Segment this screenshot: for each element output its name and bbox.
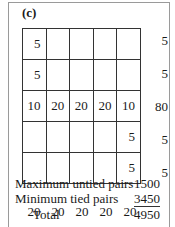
cell: 20 bbox=[93, 91, 117, 122]
cell: 5 bbox=[117, 122, 141, 153]
row-total: 5 bbox=[142, 33, 168, 49]
cell bbox=[117, 29, 141, 60]
row-total: 5 bbox=[142, 66, 168, 82]
summary-value: 1500 bbox=[134, 176, 160, 191]
summary-label: Total bbox=[15, 207, 60, 222]
summary-row-total: Total 4950 bbox=[15, 207, 160, 222]
row-total: 5 bbox=[142, 132, 168, 148]
table-row: 5 bbox=[23, 122, 141, 153]
table-row: 5 bbox=[23, 60, 141, 91]
cell bbox=[70, 60, 94, 91]
panel-label: (c) bbox=[22, 5, 36, 21]
summary-label: Maximum untied pairs bbox=[15, 176, 133, 191]
table-row: 10 20 20 20 10 bbox=[23, 91, 141, 122]
summary-row-tied: Minimum tied pairs 3450 bbox=[15, 191, 160, 207]
cell: 20 bbox=[70, 91, 94, 122]
cell: 5 bbox=[23, 29, 47, 60]
row-total: 80 bbox=[142, 99, 168, 115]
summary-row-untied: Maximum untied pairs 1500 bbox=[15, 176, 160, 191]
cell: 10 bbox=[23, 91, 47, 122]
cell bbox=[117, 60, 141, 91]
cell: 20 bbox=[46, 91, 70, 122]
cell: 10 bbox=[117, 91, 141, 122]
contingency-table: 5 5 10 20 20 20 10 5 5 bbox=[22, 28, 141, 184]
table-row: 5 bbox=[23, 29, 141, 60]
summary-block: Maximum untied pairs 1500 Minimum tied p… bbox=[15, 176, 160, 222]
cell bbox=[23, 122, 47, 153]
cell bbox=[70, 29, 94, 60]
summary-label: Minimum tied pairs bbox=[15, 191, 118, 207]
cell bbox=[46, 60, 70, 91]
summary-value: 4950 bbox=[134, 207, 160, 222]
cell bbox=[93, 122, 117, 153]
cell bbox=[70, 122, 94, 153]
cell bbox=[93, 60, 117, 91]
cell bbox=[46, 122, 70, 153]
cell bbox=[46, 29, 70, 60]
cell: 5 bbox=[23, 60, 47, 91]
cell bbox=[93, 29, 117, 60]
summary-value: 3450 bbox=[134, 191, 160, 207]
